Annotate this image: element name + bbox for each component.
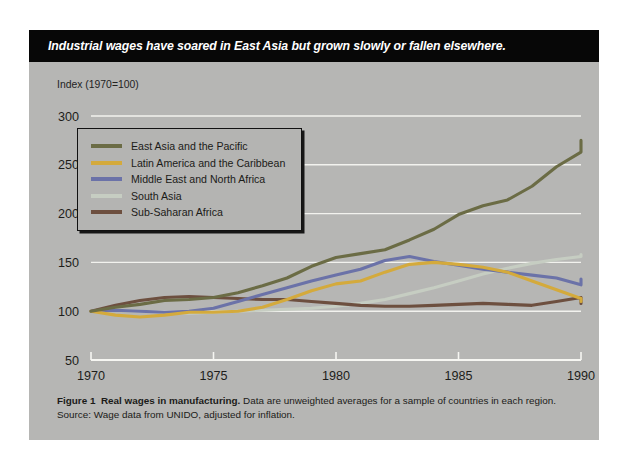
legend-item: Middle East and North Africa bbox=[91, 171, 285, 188]
legend-item-label: South Asia bbox=[131, 190, 182, 202]
figure-page: Industrial wages have soared in East Asi… bbox=[0, 0, 628, 472]
legend-swatch-icon bbox=[91, 177, 122, 181]
figure-caption: Figure 1 Real wages in manufacturing. Da… bbox=[57, 394, 575, 421]
x-axis-tick-label: 1990 bbox=[567, 369, 595, 383]
caption-figure-label: Figure 1 bbox=[57, 395, 95, 406]
page-title: Industrial wages have soared in East Asi… bbox=[29, 39, 506, 53]
x-axis-tick-label: 1980 bbox=[322, 369, 350, 383]
legend-item-label: Latin America and the Caribbean bbox=[131, 157, 285, 169]
y-axis-tick-label: 150 bbox=[58, 256, 79, 270]
legend-item-label: Sub-Saharan Africa bbox=[131, 206, 223, 218]
y-axis-tick-label: 100 bbox=[58, 305, 79, 319]
caption-body: Data are unweighted averages for a sampl… bbox=[243, 395, 556, 406]
x-axis-tick-label: 1970 bbox=[77, 369, 105, 383]
chart-legend: East Asia and the PacificLatin America a… bbox=[77, 128, 302, 231]
x-axis-tick-label: 1975 bbox=[199, 369, 227, 383]
x-axis-tick-label: 1985 bbox=[444, 369, 472, 383]
caption-source: Source: Wage data from UNIDO, adjusted f… bbox=[57, 409, 295, 420]
legend-item-label: East Asia and the Pacific bbox=[131, 140, 248, 152]
legend-swatch-icon bbox=[91, 210, 122, 214]
legend-item: South Asia bbox=[91, 188, 285, 205]
y-axis-tick-label: 50 bbox=[65, 354, 79, 368]
series-line bbox=[91, 262, 581, 317]
figure-panel: Index (1970=100) 50100150200250300197019… bbox=[29, 62, 599, 440]
legend-item: East Asia and the Pacific bbox=[91, 138, 285, 155]
y-axis-tick-label: 300 bbox=[58, 110, 79, 124]
title-bar: Industrial wages have soared in East Asi… bbox=[29, 30, 599, 62]
series-line bbox=[91, 297, 581, 312]
legend-item-label: Middle East and North Africa bbox=[131, 173, 265, 185]
y-axis-tick-label: 250 bbox=[58, 158, 79, 172]
legend-swatch-icon bbox=[91, 144, 122, 148]
legend-swatch-icon bbox=[91, 161, 122, 165]
legend-item: Sub-Saharan Africa bbox=[91, 204, 285, 221]
legend-item: Latin America and the Caribbean bbox=[91, 155, 285, 172]
caption-figure-title: Real wages in manufacturing. bbox=[101, 395, 240, 406]
legend-swatch-icon bbox=[91, 194, 122, 198]
y-axis-tick-label: 200 bbox=[58, 207, 79, 221]
